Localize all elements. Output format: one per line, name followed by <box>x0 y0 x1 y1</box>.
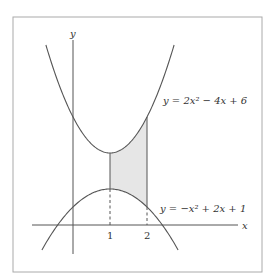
lower-curve-equation: y = −x² + 2x + 1 <box>159 203 246 214</box>
y-axis-label: y <box>69 28 76 39</box>
tick-label-2: 2 <box>144 230 150 241</box>
x-axis-label: x <box>242 220 248 231</box>
upper-curve-equation: y = 2x² − 4x + 6 <box>162 95 248 106</box>
area-between-curves-diagram: y x 1 2 y = 2x² − 4x + 6 y = −x² + 2x + … <box>0 0 271 280</box>
tick-label-1: 1 <box>107 230 113 241</box>
